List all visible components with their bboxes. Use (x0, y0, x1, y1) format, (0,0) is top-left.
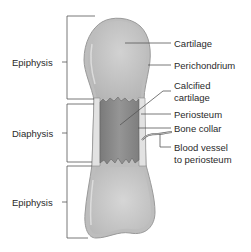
label-perichondrium: Perichondrium (174, 60, 235, 71)
blood-vessel-leader (160, 134, 171, 147)
bottom-epiphysis-cartilage (89, 167, 151, 234)
label-bone-collar: Bone collar (174, 123, 222, 134)
label-bottom-epiphysis: Epiphysis (12, 197, 53, 208)
blood-vessel (142, 132, 172, 140)
label-calcified-cartilage-line1: Calcified (174, 80, 210, 91)
label-periosteum: Periosteum (174, 109, 222, 120)
label-top-epiphysis: Epiphysis (12, 57, 53, 68)
bone-diagram: Epiphysis Diaphysis Epiphysis Cartilage … (0, 0, 251, 252)
calcified-cartilage (100, 97, 139, 164)
label-diaphysis: Diaphysis (12, 128, 53, 139)
diaphysis-bracket (67, 104, 94, 162)
label-blood-vessel-line1: Blood vessel (174, 142, 228, 153)
top-epiphysis-cartilage (88, 21, 147, 99)
label-cartilage: Cartilage (174, 38, 212, 49)
label-calcified-cartilage-line2: cartilage (174, 92, 210, 103)
label-blood-vessel-line2: to periosteum (174, 154, 232, 165)
